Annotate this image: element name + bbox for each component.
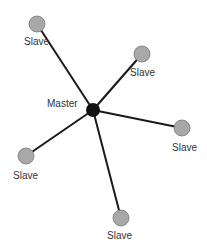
edge-master-slave-3 [93,110,182,128]
master-label: Master [47,98,78,109]
edge-master-slave-5 [93,110,121,218]
slave-label-5: Slave [107,230,132,241]
slave-node-3 [174,120,190,136]
slave-label-3: Slave [172,142,197,153]
edge-master-slave-4 [26,110,93,156]
master-node [86,103,100,117]
slave-label-2: Slave [130,67,155,78]
slave-node-4 [18,148,34,164]
star-network-diagram: SlaveSlaveSlaveSlaveSlaveMaster [0,0,207,252]
slave-node-5 [113,210,129,226]
slave-node-2 [134,46,150,62]
slave-node-1 [29,16,45,32]
slave-label-1: Slave [24,36,49,47]
slave-label-4: Slave [13,170,38,181]
edge-master-slave-2 [93,54,142,110]
